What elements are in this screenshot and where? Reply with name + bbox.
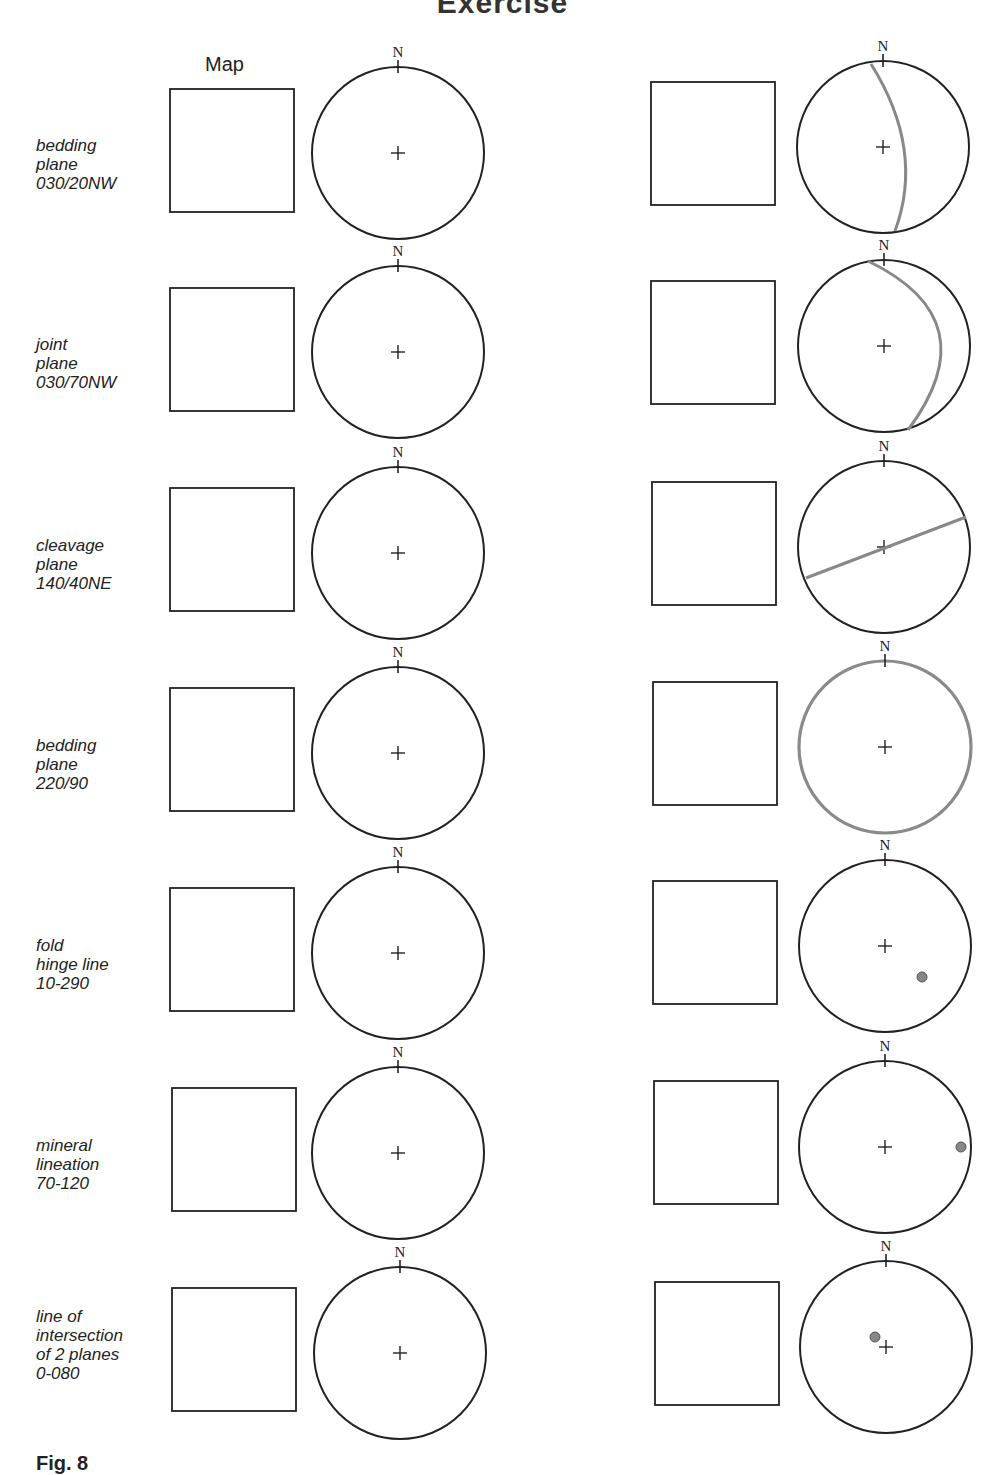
stereonet-answer bbox=[799, 837, 971, 1032]
stereonet-answer bbox=[799, 1038, 971, 1233]
stereonet-answer bbox=[797, 38, 969, 233]
map-box-answer bbox=[651, 82, 775, 205]
map-box-answer bbox=[653, 682, 777, 805]
stereonet-answer bbox=[798, 237, 970, 432]
stereonet-blank bbox=[314, 1244, 486, 1439]
stereonet-blank bbox=[312, 243, 484, 438]
stereonet-answer bbox=[800, 1238, 972, 1433]
stereonet-answer bbox=[798, 438, 970, 633]
map-box bbox=[170, 288, 294, 411]
stereonet-blank bbox=[312, 444, 484, 639]
stereonet-answer: N bbox=[799, 638, 971, 833]
stereonet-blank bbox=[312, 1044, 484, 1239]
map-box bbox=[170, 89, 294, 212]
map-box bbox=[170, 688, 294, 811]
map-box-answer bbox=[655, 1282, 779, 1405]
stereonet-blank bbox=[312, 644, 484, 839]
lineation-point bbox=[956, 1142, 966, 1152]
map-box bbox=[172, 1288, 296, 1411]
lineation-point bbox=[870, 1332, 880, 1342]
svg-text:N: N bbox=[880, 638, 891, 654]
lineation-point bbox=[917, 972, 927, 982]
map-box bbox=[170, 488, 294, 611]
stereonet-blank bbox=[312, 44, 484, 239]
map-box-answer bbox=[651, 281, 775, 404]
stereonet-blank bbox=[312, 844, 484, 1039]
map-box bbox=[170, 888, 294, 1011]
map-box-answer bbox=[654, 1081, 778, 1204]
map-box bbox=[172, 1088, 296, 1211]
map-box-answer bbox=[652, 482, 776, 605]
great-circle-line bbox=[806, 517, 966, 578]
map-box-answer bbox=[653, 881, 777, 1004]
